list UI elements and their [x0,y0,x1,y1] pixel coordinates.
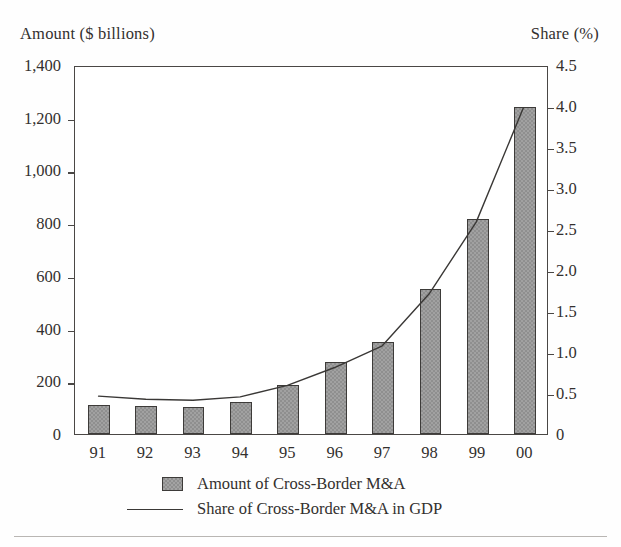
legend-item-line: Share of Cross-Border M&A in GDP [0,499,621,519]
left-axis-caption: Amount ($ billions) [20,24,155,44]
plot-area [74,66,548,435]
right-tick-0: 0 [556,425,616,445]
right-tick-2.0: 2.0 [556,261,616,281]
left-tick-400: 400 [0,320,61,340]
x-tick-92: 92 [137,443,154,463]
right-tickmark [547,354,554,355]
legend-item-bar: Amount of Cross-Border M&A [0,474,621,494]
x-tick-99: 99 [469,443,486,463]
left-tick-600: 600 [0,267,61,287]
left-tickmark [68,331,75,332]
line-series [75,67,547,434]
right-tick-1.5: 1.5 [556,302,616,322]
right-tickmark [547,108,554,109]
left-tick-1,400: 1,400 [0,56,61,76]
right-tickmark [547,190,554,191]
x-tick-97: 97 [374,443,391,463]
x-tick-96: 96 [326,443,343,463]
left-tickmark [68,225,75,226]
right-tick-3.0: 3.0 [556,179,616,199]
legend-line-label: Share of Cross-Border M&A in GDP [197,499,442,519]
legend-line-swatch-icon [127,502,183,516]
right-tick-0.5: 0.5 [556,384,616,404]
right-tick-4.0: 4.0 [556,97,616,117]
legend-bar-swatch-icon [162,477,183,491]
right-axis-caption: Share (%) [531,24,599,44]
x-tick-93: 93 [184,443,201,463]
right-tickmark [547,272,554,273]
right-tickmark [547,149,554,150]
x-tick-00: 00 [516,443,533,463]
footer-rule [14,536,607,537]
left-tickmark [68,278,75,279]
left-tick-1,200: 1,200 [0,109,61,129]
left-tick-0: 0 [0,425,61,445]
x-tick-95: 95 [279,443,296,463]
right-tick-1.0: 1.0 [556,343,616,363]
x-tick-98: 98 [421,443,438,463]
left-tick-200: 200 [0,372,61,392]
left-tick-800: 800 [0,214,61,234]
left-tickmark [68,120,75,121]
x-tick-94: 94 [232,443,249,463]
right-tickmark [547,395,554,396]
legend-bar-label: Amount of Cross-Border M&A [197,474,406,494]
right-tick-4.5: 4.5 [556,56,616,76]
right-tick-3.5: 3.5 [556,138,616,158]
left-tickmark [68,383,75,384]
chart-figure: Amount ($ billions) Share (%) 1,4001,200… [0,0,621,547]
left-tick-1,000: 1,000 [0,161,61,181]
left-tickmark [68,172,75,173]
x-tick-91: 91 [89,443,106,463]
right-tickmark [547,231,554,232]
chart-legend: Amount of Cross-Border M&A Share of Cros… [0,474,621,524]
right-tickmark [547,313,554,314]
right-tick-2.5: 2.5 [556,220,616,240]
